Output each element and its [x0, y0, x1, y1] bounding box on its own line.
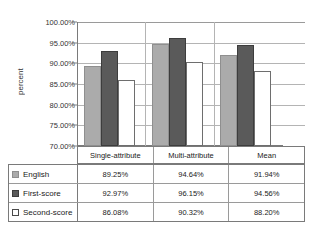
y-axis-label: percent	[14, 47, 26, 117]
bar-english-single-attribute	[84, 66, 101, 146]
y-axis-tick-label: 85.00%	[28, 80, 75, 89]
category-label: Single-attribute	[78, 147, 154, 163]
table-cell-value: 91.94%	[229, 165, 304, 183]
table-row: Second-score86.08%90.32%88.20%	[9, 203, 304, 221]
legend-swatch-icon	[12, 209, 19, 216]
legend-item-english: English	[9, 165, 78, 183]
bar-second-score-multi-attribute	[186, 62, 203, 146]
legend-item-first-score: First-score	[9, 184, 78, 202]
table-row: English89.25%94.64%91.94%	[9, 165, 304, 184]
bar-group	[146, 22, 214, 146]
bar-english-multi-attribute	[152, 44, 169, 146]
data-table: English89.25%94.64%91.94%First-score92.9…	[8, 164, 305, 222]
category-axis: Single-attributeMulti-attributeMean	[77, 146, 305, 164]
plot-region: percent 100.00%95.00%90.00%85.00%80.00%7…	[0, 0, 313, 158]
table-cell-value: 86.08%	[78, 203, 154, 221]
bar-second-score-mean	[254, 71, 271, 146]
bar-first-score-mean	[237, 45, 254, 147]
bar-english-mean	[220, 55, 237, 146]
y-axis-tick-label: 100.00%	[28, 18, 75, 27]
table-cell-value: 96.15%	[154, 184, 230, 202]
bar-groups	[78, 22, 283, 146]
category-label: Multi-attribute	[154, 147, 230, 163]
bar-group	[215, 22, 283, 146]
legend-item-second-score: Second-score	[9, 203, 78, 221]
category-label: Mean	[229, 147, 304, 163]
table-row: First-score92.97%96.15%94.56%	[9, 184, 304, 203]
legend-label: English	[23, 170, 49, 179]
table-cell-value: 94.64%	[154, 165, 230, 183]
legend-label: Second-score	[23, 208, 72, 217]
bar-group	[78, 22, 146, 146]
y-axis-tick-label: 80.00%	[28, 100, 75, 109]
y-axis-tick-label: 90.00%	[28, 59, 75, 68]
table-cell-value: 92.97%	[78, 184, 154, 202]
bar-first-score-multi-attribute	[169, 38, 186, 146]
table-cell-value: 89.25%	[78, 165, 154, 183]
table-cell-value: 88.20%	[229, 203, 304, 221]
y-axis-tick-label: 75.00%	[28, 121, 75, 130]
table-cell-value: 94.56%	[229, 184, 304, 202]
bar-second-score-single-attribute	[118, 80, 135, 146]
legend-swatch-icon	[12, 190, 19, 197]
bar-first-score-single-attribute	[101, 51, 118, 146]
legend-swatch-icon	[12, 171, 19, 178]
y-axis-tick-label: 95.00%	[28, 38, 75, 47]
y-axis-tick-label: 70.00%	[28, 142, 75, 151]
table-cell-value: 90.32%	[154, 203, 230, 221]
chart-page: percent 100.00%95.00%90.00%85.00%80.00%7…	[0, 0, 313, 229]
legend-label: First-score	[23, 189, 61, 198]
